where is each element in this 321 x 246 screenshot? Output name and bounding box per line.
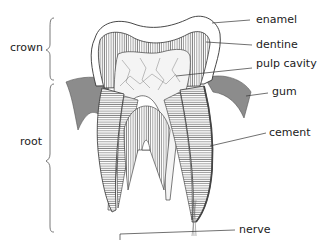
root-brace: [46, 84, 54, 232]
label-dentine: dentine: [256, 39, 298, 50]
label-pulp-cavity: pulp cavity: [256, 58, 317, 69]
gum-right: [205, 76, 251, 118]
tooth-diagram: [0, 0, 321, 246]
label-enamel: enamel: [256, 14, 297, 25]
label-nerve: nerve: [239, 224, 271, 235]
label-cement: cement: [269, 127, 311, 138]
crown-brace: [46, 18, 54, 80]
label-root: root: [20, 136, 42, 147]
label-crown: crown: [10, 42, 43, 53]
label-gum: gum: [272, 86, 297, 97]
